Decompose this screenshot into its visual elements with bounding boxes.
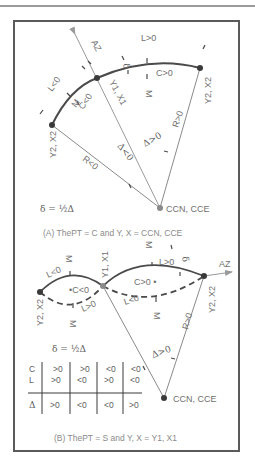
table-cell: <0: [106, 364, 116, 374]
y2x2-right-label-b: Y2, X2: [207, 286, 217, 313]
point-center-a: [157, 205, 163, 211]
d-neg-label-a: Δ<0: [115, 141, 135, 163]
center-label-b: CCN, CCE: [173, 394, 217, 404]
az-arrow-b: [204, 272, 232, 276]
tick: [203, 45, 205, 49]
table-cell: >0: [104, 375, 114, 385]
caption-b: (B) ThePT = S and Y, X = Y1, X1: [54, 433, 177, 443]
radius-right-b: [164, 276, 204, 398]
c-pos-label-a: C>0: [156, 68, 173, 78]
point-y2x2-right-a: [197, 65, 203, 71]
d-pos-label-a: Δ>0: [141, 130, 163, 149]
tick: [171, 245, 172, 249]
point-y2x2-left-b: [37, 289, 43, 295]
arc-right-a: [97, 63, 200, 78]
l-neg-label-a: L<0: [45, 75, 62, 93]
c-neg-label-b: •C<0: [69, 285, 89, 295]
tick: [171, 358, 175, 359]
table-cell: <0: [104, 400, 114, 410]
tick: [82, 66, 85, 69]
point-y2x2-right-b: [201, 273, 207, 279]
d-pos-label-b: Δ>0: [150, 344, 172, 360]
l-pos-bottom-label-b: L>0: [80, 298, 98, 314]
m-bottom-right-label-b: M: [152, 312, 162, 320]
tick: [40, 110, 43, 114]
delta-small-label-b: δ: [180, 256, 191, 263]
l-pos-label-a: L>0: [141, 33, 156, 43]
y1x1-label-b: Y1, X1: [100, 251, 110, 278]
r-pos-label-b: R>0: [180, 312, 194, 331]
point-center-b: [161, 395, 167, 401]
az-label-a: AZ: [89, 38, 103, 53]
r-pos-label-a: R>0: [170, 110, 185, 129]
y1x1-label-a: Y1, X1: [107, 78, 129, 107]
r-neg-label-a: R<0: [81, 154, 100, 172]
az-label-b: AZ: [219, 259, 231, 269]
point-y1x1-a: [94, 75, 100, 81]
l-pos-top-label-b: L>0: [159, 257, 174, 267]
y2x2-right-label-a: Y2, X2: [203, 77, 213, 104]
table-cell: <0: [130, 375, 140, 385]
table-cell: <0: [77, 375, 87, 385]
c-pos-label-b: C>0 •: [134, 277, 156, 287]
formula-b: δ = ½Δ: [52, 344, 86, 354]
panel-b: AZ L<0 L>0 L>0 L<0 •C<0 C>0 • M M M M δ …: [28, 241, 232, 443]
table-row-label: Δ: [29, 400, 36, 410]
m-top-right-label-b: M: [144, 241, 154, 249]
table-cell: >0: [80, 364, 90, 374]
m-bottom-left-label-b: M: [68, 320, 78, 328]
table-cell: >0: [129, 400, 139, 410]
tick: [122, 56, 124, 60]
panel-a: AZ L>0 L<0 C>0 C<0 M M δ Y1, X1 Y2, X2 Y…: [40, 33, 213, 238]
figure-canvas: AZ L>0 L<0 C>0 C<0 M M δ Y1, X1 Y2, X2 Y…: [0, 0, 255, 468]
radius-right-a: [160, 68, 200, 208]
table-cell: >0: [53, 364, 63, 374]
caption-a: (A) ThePT = C and Y, X = CCN, CCE: [43, 228, 183, 238]
tick: [143, 366, 145, 370]
m-top-left-label-b: M: [64, 255, 74, 263]
center-label-a: CCN, CCE: [166, 204, 210, 214]
table-row-label: L: [29, 375, 34, 385]
delta-small-label-a: δ: [121, 63, 132, 70]
tick: [164, 151, 168, 152]
sign-table: C L Δ >0 >0 <0 <0 >0 <0 >0 <0 >0 <0 <0 >…: [28, 362, 142, 414]
table-row-label: C: [29, 364, 35, 374]
table-cell: <0: [131, 364, 141, 374]
y2x2-left-label-a: Y2, X2: [48, 131, 58, 158]
tick: [67, 93, 70, 96]
table-cell: >0: [51, 375, 61, 385]
point-y1x1-b: [100, 283, 106, 289]
m-label-a-right: M: [144, 90, 154, 98]
y2x2-left-label-b: Y2, X2: [35, 299, 45, 326]
point-y2x2-left-a: [49, 122, 55, 128]
table-cell: >0: [50, 400, 60, 410]
formula-a: δ = ½Δ: [40, 204, 74, 214]
table-cell: <0: [77, 400, 87, 410]
